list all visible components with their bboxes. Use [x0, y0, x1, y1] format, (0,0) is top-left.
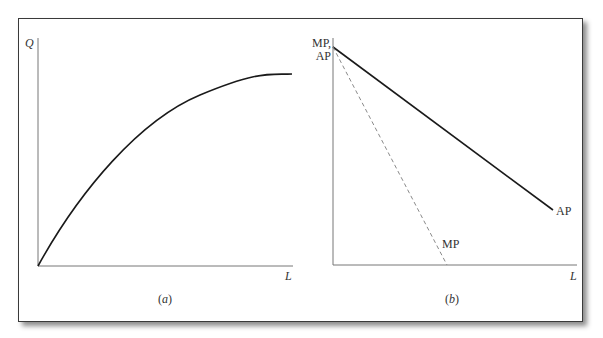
panel-b	[333, 38, 577, 265]
panel-b-x-axis-label: L	[570, 270, 577, 283]
mp-line	[333, 47, 447, 265]
panel-b-caption: (b)	[445, 293, 459, 306]
ap-curve-label: AP	[556, 205, 571, 218]
ap-line	[333, 47, 553, 210]
panel-b-caption-letter: b	[449, 292, 455, 306]
panel-a	[38, 38, 293, 266]
panel-a-caption-letter: a	[162, 292, 168, 306]
mp-curve-label: MP	[442, 238, 459, 251]
panel-a-x-axis-label: L	[285, 270, 292, 283]
panel-a-caption: (a)	[158, 293, 172, 306]
panel-a-y-axis-label: Q	[25, 37, 34, 50]
panel-b-y-axis-label: MP, AP	[307, 37, 331, 63]
total-product-curve	[38, 74, 292, 266]
production-curves-figure	[0, 0, 603, 338]
panel-b-y-axis-label-line2: AP	[307, 50, 331, 63]
